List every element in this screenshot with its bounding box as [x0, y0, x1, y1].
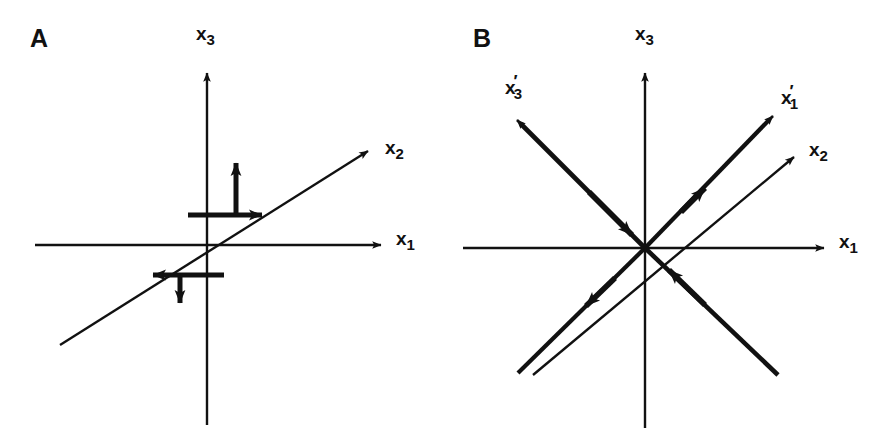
panel-b-vector-x3-prime-negative — [645, 248, 778, 375]
panel-b-label-x1-prime-sub: 1 — [790, 95, 798, 112]
panel-b-label-x1-sub: 1 — [850, 239, 858, 256]
panel-a-label-x3-sub: 3 — [207, 31, 215, 48]
panel-a-drawing — [0, 0, 443, 440]
panel-a-axis-x2 — [60, 151, 368, 345]
panel-b-label-x3-prime: x′3 — [505, 78, 528, 97]
panel-b-label-x3-base: x — [635, 23, 646, 44]
panel-b-vector-x3-prime-positive — [517, 120, 645, 248]
panel-b-drawing — [443, 0, 886, 440]
panel-b-label-x2-base: x — [809, 139, 820, 160]
panel-b-vector-x1-prime-negative — [518, 248, 645, 373]
panel-b-label-x3-sub: 3 — [646, 31, 654, 48]
panel-b-label-x3: x3 — [635, 24, 654, 43]
panel-a-label-x1-sub: 1 — [407, 236, 415, 253]
panel-b-label-x1-base: x — [839, 231, 850, 252]
panel-a-label-x3: x3 — [196, 24, 215, 43]
panel-a-label-x2-base: x — [385, 137, 396, 158]
panel-b-label-x2-sub: 2 — [820, 147, 828, 164]
panel-b-label-x1: x1 — [839, 232, 858, 251]
panel-a-label-x2-sub: 2 — [396, 145, 404, 162]
panel-b: B — [443, 0, 886, 440]
panel-a-label-x1: x1 — [396, 229, 415, 248]
panel-a: A — [0, 0, 443, 440]
panel-a-label-x1-base: x — [396, 228, 407, 249]
panel-a-label-x2: x2 — [385, 138, 404, 157]
panel-a-label-x3-base: x — [196, 23, 207, 44]
figure-root: A — [0, 0, 886, 440]
panel-b-label-x3-prime-sub: 3 — [514, 85, 522, 102]
panel-b-label-x1-prime: x′1 — [781, 88, 804, 107]
panel-b-label-x2: x2 — [809, 140, 828, 159]
